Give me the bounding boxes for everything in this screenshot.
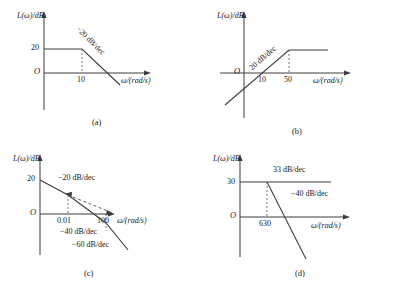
- origin-label: O: [34, 67, 40, 76]
- panel-caption-d: (d): [295, 269, 305, 278]
- y-axis-label: L(ω)/dB: [17, 12, 44, 20]
- panel-b-plot: [200, 0, 400, 144]
- y-tick-20: 20: [27, 175, 35, 183]
- slope-label-minus20: −20 dB/dec: [58, 174, 95, 182]
- x-tick-10: 10: [77, 76, 85, 84]
- origin-label: O: [234, 67, 240, 76]
- panel-c: L(ω)/dB ω/(rad/s) O 20 0.01 100 −20 dB/d…: [0, 145, 200, 289]
- panel-b: L(ω)/dB ω/(rad/s) O 10 50 20 dB/dec (b): [200, 0, 400, 144]
- slope-label-minus40: −40 dB/dec: [60, 228, 97, 236]
- x-axis-label: ω/(rad/s): [313, 77, 343, 85]
- origin-label: O: [230, 211, 236, 220]
- panel-a: L(ω)/dB ω/(rad/s) O 20 10 −20 dB/dec (a): [0, 0, 200, 144]
- y-axis-label: L(ω)/dB: [13, 155, 40, 163]
- origin-label: O: [30, 208, 36, 217]
- x-axis-arrowhead: [343, 214, 350, 219]
- slope-label-minus60: −60 dB/dec: [72, 241, 109, 249]
- x-tick-100: 100: [97, 217, 109, 225]
- slope-label-minus40: −40 dB/dec: [291, 190, 328, 198]
- x-tick-0.01: 0.01: [57, 217, 71, 225]
- asymptote-dashed-minus20: [68, 195, 110, 212]
- y-tick-20: 20: [31, 44, 39, 52]
- x-tick-630: 630: [259, 220, 271, 228]
- x-axis-label: ω/(rad/s): [311, 222, 341, 230]
- x-axis-label: ω/(rad/s): [117, 217, 147, 225]
- panel-d: L(ω)/dB ω/(rad/s) O 30 630 33 dB/dec −40…: [200, 145, 400, 289]
- x-tick-10: 10: [258, 76, 266, 84]
- panel-caption-c: (c): [84, 269, 93, 278]
- x-axis-arrowhead: [144, 70, 151, 75]
- figure-sheet: L(ω)/dB ω/(rad/s) O 20 10 −20 dB/dec (a)…: [0, 0, 400, 289]
- y-tick-30: 30: [227, 178, 235, 186]
- panel-caption-a: (a): [92, 118, 101, 127]
- y-axis-label: L(ω)/dB: [213, 155, 240, 163]
- x-axis-label: ω/(rad/s): [121, 77, 151, 85]
- x-axis-arrowhead: [344, 70, 351, 75]
- x-tick-50: 50: [284, 76, 292, 84]
- y-axis-label: L(ω)/dB: [217, 12, 244, 20]
- slope-label-33: 33 dB/dec: [273, 166, 306, 174]
- panel-caption-b: (b): [292, 127, 302, 136]
